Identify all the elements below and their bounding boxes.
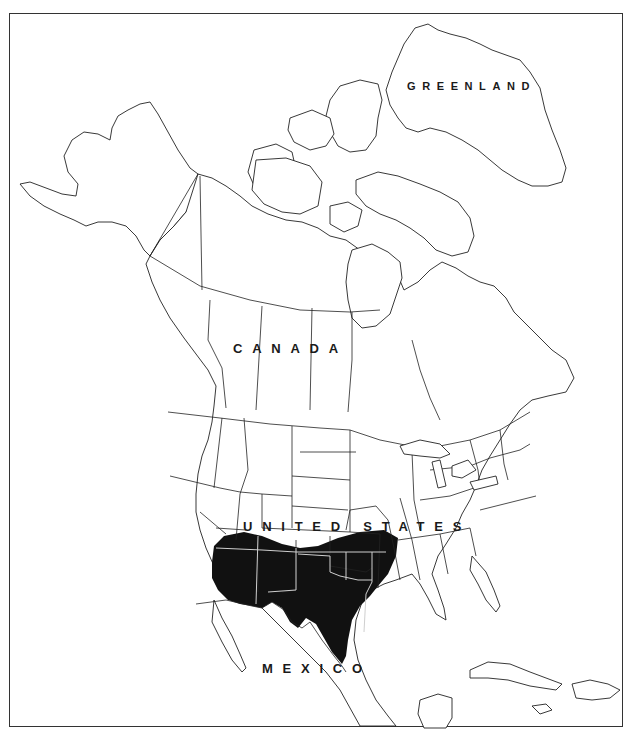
label-greenland: GREENLAND [407, 80, 536, 92]
cuba [470, 662, 562, 690]
baja-california [212, 600, 246, 672]
ellesmere-island [326, 80, 382, 152]
label-canada: CANADA [233, 341, 348, 356]
hispaniola [572, 680, 620, 700]
greenland-landmass [386, 24, 566, 186]
jamaica [532, 704, 552, 714]
yucatan-peninsula [418, 694, 452, 728]
label-united-states: UNITED STATES [243, 519, 471, 534]
north-america-map [0, 0, 633, 740]
southampton-island [330, 202, 362, 232]
victoria-island [252, 158, 322, 214]
label-mexico: MEXICO [262, 661, 372, 676]
baffin-island [356, 172, 474, 256]
florida-peninsula [470, 556, 500, 612]
